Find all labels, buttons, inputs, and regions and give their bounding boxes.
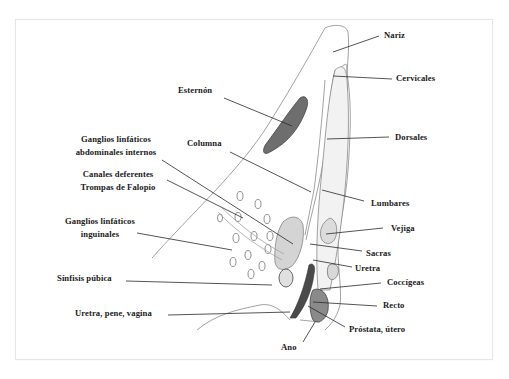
sternum-shape	[264, 97, 308, 154]
label-lumbares: Lumbares	[371, 197, 409, 210]
label-coccigeas: Coccígeas	[387, 276, 424, 289]
label-recto: Recto	[383, 299, 405, 312]
label-nariz: Nariz	[384, 29, 405, 42]
label-vejiga: Vejiga	[391, 222, 415, 235]
label-dorsales: Dorsales	[395, 131, 427, 144]
label-uretra: Uretra	[355, 262, 380, 275]
label-sinfisis-pubica: Sínfisis púbica	[57, 272, 112, 285]
label-prostata-utero: Próstata, útero	[349, 323, 405, 336]
label-uretra-pene-vagina: Uretra, pene, vagina	[75, 307, 152, 320]
label-columna: Columna	[187, 137, 222, 150]
label-canales-line2: Trompas de Falopio	[73, 181, 163, 194]
label-ganglios-inguinales-line1: Ganglios linfáticos	[58, 215, 142, 228]
rectum-shape	[310, 289, 328, 322]
label-canales-line1: Canales deferentes	[73, 168, 163, 181]
label-ganglios-abdominales-line1: Ganglios linfáticos	[68, 133, 164, 146]
label-canales: Canales deferentes Trompas de Falopio	[73, 168, 163, 193]
label-esternon: Esternón	[178, 84, 212, 97]
label-ganglios-inguinales-line2: inguinales	[58, 228, 142, 241]
label-sacras: Sacras	[366, 247, 391, 260]
label-ganglios-inguinales: Ganglios linfáticos inguinales	[58, 215, 142, 240]
label-ganglios-abdominales: Ganglios linfáticos abdominales internos	[68, 133, 164, 158]
symphysis-shape	[279, 269, 293, 287]
label-cervicales: Cervicales	[396, 72, 435, 85]
spine-shade	[317, 67, 349, 290]
label-ano: Ano	[281, 341, 297, 354]
leader-lines	[126, 36, 392, 342]
lymph-nodes	[218, 192, 274, 279]
label-ganglios-abdominales-line2: abdominales internos	[68, 146, 164, 159]
pelvis-shade	[275, 217, 304, 269]
coccyx-shape	[327, 264, 338, 280]
